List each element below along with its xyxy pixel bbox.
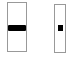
vertical-slider-track-wide[interactable] [7, 2, 27, 52]
canvas [0, 0, 73, 59]
slider-thumb-square[interactable] [58, 25, 63, 31]
vertical-slider-track-narrow[interactable] [54, 4, 66, 53]
slider-thumb-bar[interactable] [8, 25, 26, 31]
